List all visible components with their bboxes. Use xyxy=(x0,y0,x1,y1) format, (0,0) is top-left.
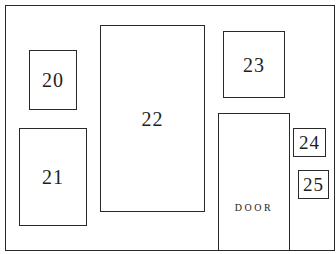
room-20: 20 xyxy=(29,50,77,110)
room-24-label: 24 xyxy=(299,133,320,152)
room-22: 22 xyxy=(100,25,205,212)
room-24: 24 xyxy=(293,128,326,157)
door-label: DOOR xyxy=(219,202,289,213)
room-23-label: 23 xyxy=(243,55,265,75)
room-20-label: 20 xyxy=(42,70,64,90)
door: DOOR xyxy=(218,113,290,251)
room-21: 21 xyxy=(19,128,87,226)
room-21-label: 21 xyxy=(42,167,64,187)
room-22-label: 22 xyxy=(142,109,164,129)
room-23: 23 xyxy=(223,31,285,98)
room-25: 25 xyxy=(298,170,329,199)
room-25-label: 25 xyxy=(303,175,324,194)
